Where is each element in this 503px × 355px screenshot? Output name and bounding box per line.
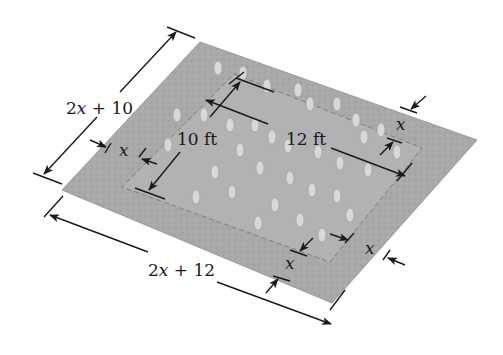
outer-length-label: 2x + 12: [148, 260, 215, 280]
border-left-label: x: [119, 140, 129, 160]
outer-width-label: 2x + 10: [66, 98, 133, 118]
border-right-label: x: [365, 238, 375, 258]
inner-width-label: 10 ft: [177, 129, 217, 149]
inner-length-label: 12 ft: [286, 129, 326, 149]
diagram-canvas: 2x + 10 2x + 12 10 ft 12 ft x: [0, 0, 503, 355]
border-bottom-label: x: [285, 253, 295, 273]
border-top-right-label: x: [396, 114, 406, 134]
